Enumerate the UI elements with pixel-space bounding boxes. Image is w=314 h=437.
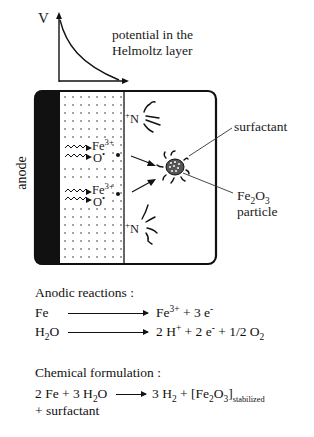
plot-caption-line2: Helmoltz layer <box>112 43 193 59</box>
anodic-reaction-2-left: H2O <box>35 324 59 340</box>
anodic-reaction-1-left: Fe <box>35 305 49 321</box>
charge-dot-2 <box>116 192 120 196</box>
anodic-reaction-1-right: Fe3+ + 3 e- <box>156 305 213 321</box>
ion-migration-arrows <box>65 145 92 203</box>
surfactant-label: surfactant <box>234 119 287 135</box>
surfactant-leader <box>189 128 232 156</box>
chemical-continuation: + surfactant <box>35 403 99 419</box>
ion-o-2: O• <box>93 194 105 210</box>
anode-label: anode <box>14 153 30 193</box>
anodic-reaction-2-right: 2 H+ + 2 e- + 1/2 O2 <box>156 324 264 340</box>
plot-axis-label-v: V <box>38 10 49 26</box>
plot-x-axis-arrowhead <box>122 78 129 84</box>
anode-bar <box>34 90 60 265</box>
plot-caption-line1: potential in the <box>112 27 193 43</box>
plot-y-axis-arrowhead <box>56 12 62 19</box>
chemical-equation-left: 2 Fe + 3 H2O <box>35 386 107 402</box>
ammonium-head-bottom: +N <box>125 221 139 237</box>
potential-decay-curve <box>60 20 119 80</box>
chemical-equation-right: 3 H2 + [Fe2O3]stabilized <box>152 386 265 402</box>
wavy-arrow-fe-2 <box>65 189 88 192</box>
particle-formula-label: Fe2O3 <box>237 188 270 204</box>
ammonium-head-top: +N <box>125 111 139 127</box>
wavy-arrow-o-1 <box>65 154 88 157</box>
anodic-heading: Anodic reactions : <box>35 285 134 301</box>
adsorption-arrows <box>131 156 156 192</box>
leader-lines <box>183 128 233 193</box>
ammonium-tails <box>142 102 160 244</box>
charge-dot-1 <box>116 153 120 157</box>
helmholtz-layer-dots <box>64 96 122 258</box>
reaction-arrow-2 <box>68 332 148 333</box>
reaction-arrow-1 <box>68 313 148 314</box>
particle-word-label: particle <box>237 204 277 220</box>
wavy-arrow-o-2 <box>65 197 88 200</box>
fe2o3-particle <box>157 151 189 183</box>
wavy-arrow-fe-1 <box>65 145 88 148</box>
ion-o-1: O• <box>93 150 105 166</box>
chemical-arrow <box>116 394 146 395</box>
particle-leader <box>183 173 233 193</box>
chemical-heading: Chemical formulation : <box>35 365 161 381</box>
